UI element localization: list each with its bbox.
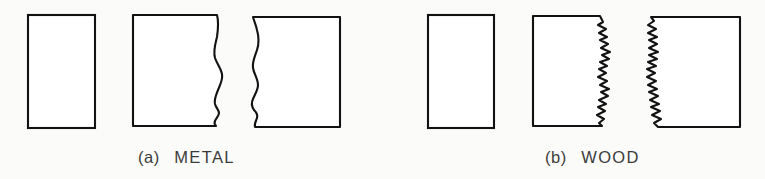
wood-intact-specimen	[428, 15, 494, 128]
caption-wood-word: WOOD	[581, 148, 640, 166]
caption-metal-word: METAL	[174, 148, 235, 166]
wood-fracture-right-piece	[647, 17, 740, 127]
metal-intact-specimen	[28, 15, 95, 128]
panel-wood: (b) WOOD	[428, 15, 740, 166]
metal-fracture-left-piece	[133, 15, 222, 126]
wood-fracture-left-piece	[533, 16, 610, 126]
fracture-comparison-figure: (a) METAL (b) WOOD	[0, 0, 765, 179]
caption-metal: (a) METAL	[138, 148, 235, 166]
caption-wood: (b) WOOD	[545, 148, 640, 166]
caption-metal-marker: (a)	[138, 148, 160, 166]
metal-fracture-right-piece	[252, 17, 340, 127]
panel-metal: (a) METAL	[28, 15, 340, 166]
caption-wood-marker: (b)	[545, 148, 567, 166]
figure-canvas: (a) METAL (b) WOOD	[0, 0, 765, 179]
